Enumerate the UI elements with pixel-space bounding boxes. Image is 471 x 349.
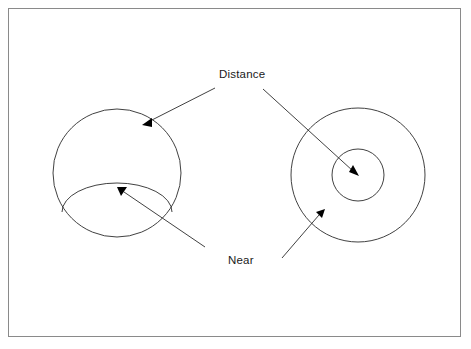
- leader-distance-left-arrowhead: [142, 118, 152, 127]
- diagram-vector-layer: [0, 0, 471, 349]
- leader-near-left: [117, 187, 205, 247]
- leader-near-right: [282, 209, 325, 258]
- leader-distance-right-arrowhead: [349, 165, 359, 176]
- leader-near-left-arrowhead: [117, 187, 127, 196]
- leader-distance-left-line: [148, 88, 215, 122]
- left-cap-arc: [62, 183, 172, 212]
- leader-distance-left: [142, 88, 215, 127]
- leader-near-left-line: [124, 192, 205, 247]
- diagram-canvas: Distance Near: [0, 0, 471, 349]
- leader-distance-right-line: [263, 89, 353, 171]
- label-near: Near: [228, 254, 254, 266]
- leader-near-right-line: [282, 215, 319, 258]
- label-distance: Distance: [219, 68, 265, 80]
- leader-distance-right: [263, 89, 359, 176]
